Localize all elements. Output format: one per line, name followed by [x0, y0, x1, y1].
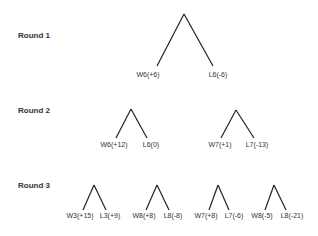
left-branch — [209, 185, 218, 210]
right-branch — [94, 185, 106, 210]
tree-diagram — [0, 0, 318, 236]
leaf-label-left: W7(+8) — [194, 212, 217, 219]
leaf-label-right: L6(0) — [143, 141, 159, 148]
leaf-label-right: L8(-8) — [164, 212, 183, 219]
leaf-label-right: L8(-21) — [281, 212, 304, 219]
left-branch — [221, 110, 236, 138]
round-3-tree-3 — [209, 185, 229, 210]
round-2-tree-2 — [221, 110, 254, 138]
round-3-tree-2 — [146, 185, 169, 210]
leaf-label-left: W3(+15) — [66, 212, 93, 219]
left-branch — [83, 185, 94, 210]
left-branch — [265, 185, 274, 210]
right-branch — [218, 185, 229, 210]
leaf-label-right: L6(-6) — [209, 71, 228, 78]
right-branch — [131, 109, 147, 138]
round-3-tree-4 — [265, 185, 286, 210]
leaf-label-right: L7(-13) — [246, 141, 269, 148]
leaf-label-left: W6(+12) — [100, 141, 127, 148]
left-branch — [116, 109, 131, 138]
leaf-label-left: W8(-5) — [251, 212, 272, 219]
right-branch — [157, 185, 169, 210]
right-branch — [184, 14, 213, 66]
leaf-label-right: L3(+9) — [100, 212, 120, 219]
leaf-label-right: L7(-6) — [225, 212, 244, 219]
leaf-label-left: W6(+6) — [136, 71, 159, 78]
left-branch — [146, 185, 157, 210]
round-3-tree-1 — [83, 185, 106, 210]
leaf-label-left: W7(+1) — [208, 141, 231, 148]
round-1-tree-1 — [157, 14, 213, 66]
left-branch — [157, 14, 184, 66]
leaf-label-left: W8(+8) — [132, 212, 155, 219]
right-branch — [236, 110, 254, 138]
round-2-tree-1 — [116, 109, 147, 138]
right-branch — [274, 185, 286, 210]
